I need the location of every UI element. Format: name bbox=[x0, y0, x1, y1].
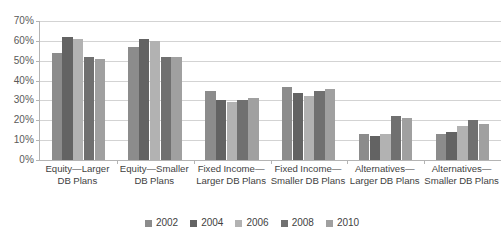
bar bbox=[62, 37, 72, 160]
bar bbox=[282, 87, 292, 160]
bar bbox=[479, 124, 489, 160]
bar bbox=[436, 134, 446, 160]
bar bbox=[52, 53, 62, 160]
legend-swatch-icon bbox=[281, 220, 288, 227]
bar bbox=[171, 57, 181, 160]
legend: 20022004200620082010 bbox=[0, 218, 504, 228]
bar-group bbox=[271, 21, 348, 160]
bar bbox=[293, 93, 303, 161]
bar-group bbox=[424, 21, 501, 160]
y-axis-tick-label: 10% bbox=[14, 135, 34, 145]
y-axis-tick-label: 50% bbox=[14, 56, 34, 66]
legend-label: 2004 bbox=[201, 218, 223, 228]
y-axis-tick-label: 20% bbox=[14, 115, 34, 125]
legend-swatch-icon bbox=[190, 220, 197, 227]
y-axis-tick-label: 70% bbox=[14, 16, 34, 26]
legend-swatch-icon bbox=[145, 220, 152, 227]
x-axis-category-label: Equity—Smaller DB Plans bbox=[116, 163, 193, 187]
legend-item: 2002 bbox=[145, 218, 178, 228]
y-axis-tick-label: 40% bbox=[14, 76, 34, 86]
bar bbox=[446, 132, 456, 160]
bar-group bbox=[40, 21, 117, 160]
bar bbox=[84, 57, 94, 160]
bar bbox=[304, 96, 314, 160]
bar bbox=[314, 91, 324, 161]
bar-group bbox=[117, 21, 194, 160]
legend-item: 2006 bbox=[235, 218, 268, 228]
x-axis-category-labels: Equity—Larger DB PlansEquity—Smaller DB … bbox=[39, 163, 501, 209]
legend-label: 2008 bbox=[292, 218, 314, 228]
x-axis-category-label: Fixed Income—Smaller DB Plans bbox=[270, 163, 347, 187]
legend-item: 2010 bbox=[326, 218, 359, 228]
x-axis-category-label: Equity—Larger DB Plans bbox=[39, 163, 116, 187]
bar bbox=[205, 91, 215, 161]
legend-swatch-icon bbox=[326, 220, 333, 227]
x-axis-category-label: Alternatives—Smaller DB Plans bbox=[423, 163, 500, 187]
bar bbox=[139, 39, 149, 160]
bar bbox=[359, 134, 369, 160]
y-axis-tick-label: 0% bbox=[19, 155, 34, 165]
bar-group bbox=[194, 21, 271, 160]
bar bbox=[161, 57, 171, 160]
bar bbox=[216, 100, 226, 160]
y-axis-tick bbox=[36, 160, 40, 161]
bar-chart: 70%60%50%40%30%20%10%0% Equity—Larger DB… bbox=[0, 0, 504, 234]
bars-layer bbox=[40, 21, 501, 160]
x-axis-category-label: Alternatives—Larger DB Plans bbox=[346, 163, 423, 187]
plot-area bbox=[39, 21, 501, 160]
legend-label: 2006 bbox=[246, 218, 268, 228]
bar bbox=[457, 126, 467, 160]
bar bbox=[227, 102, 237, 160]
bar bbox=[402, 118, 412, 160]
y-axis-tick-label: 60% bbox=[14, 36, 34, 46]
plot-wrapper: 70%60%50%40%30%20%10%0% Equity—Larger DB… bbox=[0, 0, 504, 162]
bar bbox=[73, 39, 83, 160]
bar bbox=[237, 100, 247, 160]
legend-item: 2008 bbox=[281, 218, 314, 228]
bar bbox=[370, 136, 380, 160]
bar bbox=[380, 134, 390, 160]
bar bbox=[128, 47, 138, 160]
legend-label: 2002 bbox=[156, 218, 178, 228]
bar bbox=[95, 59, 105, 160]
y-axis: 70%60%50%40%30%20%10%0% bbox=[0, 0, 38, 162]
bar bbox=[325, 89, 335, 160]
legend-item: 2004 bbox=[190, 218, 223, 228]
bar bbox=[248, 98, 258, 160]
x-axis-category-label: Fixed Income—Larger DB Plans bbox=[193, 163, 270, 187]
bar bbox=[150, 41, 160, 160]
bar bbox=[391, 116, 401, 160]
legend-label: 2010 bbox=[337, 218, 359, 228]
bar-group bbox=[347, 21, 424, 160]
y-axis-tick-label: 30% bbox=[14, 95, 34, 105]
legend-swatch-icon bbox=[235, 220, 242, 227]
bar bbox=[468, 120, 478, 160]
